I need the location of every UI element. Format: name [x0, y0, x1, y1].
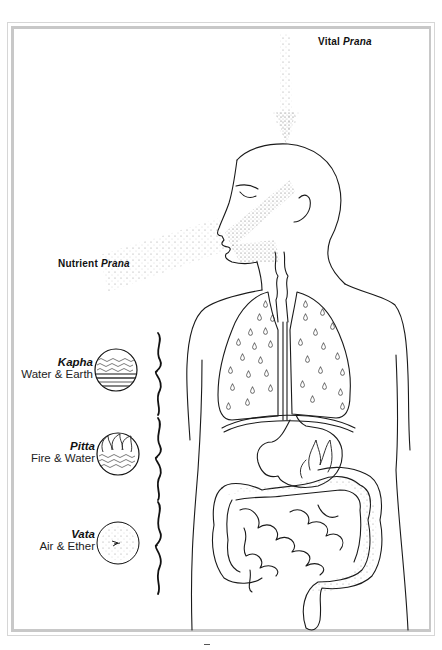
vital-prana-emph: Prana [343, 36, 372, 47]
nutrient-prana-stream [100, 180, 295, 292]
nutrient-prana-label: Nutrient Prana [58, 258, 130, 269]
kapha-elements: Water & Earth [0, 368, 93, 380]
left-lung [218, 292, 278, 420]
small-intestine [240, 509, 324, 575]
vata-name: Vata [0, 528, 95, 540]
right-lung [290, 292, 350, 418]
nutrient-prana-word: Nutrient [58, 258, 101, 269]
kapha-name: Kapha [0, 356, 93, 368]
stomach [257, 415, 342, 487]
pitta-label: Pitta Fire & Water [0, 440, 95, 464]
pitta-name: Pitta [0, 440, 95, 452]
vata-label: Vata Air & Ether [0, 528, 95, 552]
pitta-elements: Fire & Water [0, 452, 95, 464]
kapha-label: Kapha Water & Earth [0, 356, 93, 380]
fire-flame [309, 440, 332, 472]
water-earth-circle-icon [95, 349, 137, 391]
dosha-braces [156, 333, 161, 594]
vital-prana-stream [272, 33, 300, 145]
body-illustration [0, 0, 442, 650]
vital-prana-word: Vital [318, 36, 343, 47]
lung-water-drops [227, 301, 345, 410]
page-mark [204, 644, 210, 645]
vital-prana-label: Vital Prana [318, 36, 372, 47]
fire-water-circle-icon [97, 433, 139, 475]
air-ether-circle-icon [97, 522, 139, 564]
vata-elements: Air & Ether [0, 540, 95, 552]
nutrient-prana-emph: Prana [101, 258, 130, 269]
